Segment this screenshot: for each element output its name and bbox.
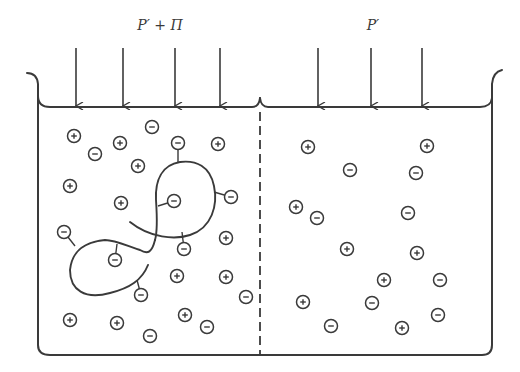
anion-icon xyxy=(146,121,159,134)
cation-icon xyxy=(111,317,124,330)
right-pressure-label: P′ xyxy=(367,17,380,33)
left-wall xyxy=(27,70,502,355)
osmotic-pressure-diagram: P′ + Π P′ xyxy=(0,0,520,372)
left-pressure-label: P′ + Π xyxy=(137,17,182,33)
anion-icon xyxy=(172,137,185,150)
pressure-arrows xyxy=(76,48,422,106)
free-ions xyxy=(64,121,447,343)
cation-icon xyxy=(115,197,128,210)
anion-icon xyxy=(225,191,238,204)
diagram-canvas xyxy=(0,0,520,372)
anion-icon xyxy=(402,207,415,220)
cation-icon xyxy=(68,130,81,143)
cation-icon xyxy=(421,140,434,153)
cation-icon xyxy=(64,180,77,193)
anion-icon xyxy=(432,309,445,322)
cation-icon xyxy=(378,274,391,287)
cation-icon xyxy=(179,309,192,322)
anion-icon xyxy=(168,195,181,208)
container xyxy=(27,70,502,355)
cation-icon xyxy=(297,296,310,309)
anion-icon xyxy=(240,291,253,304)
cation-icon xyxy=(64,314,77,327)
cation-icon xyxy=(396,322,409,335)
cation-icon xyxy=(411,247,424,260)
anion-icon xyxy=(311,212,324,225)
anion-icon xyxy=(109,254,122,267)
anion-icon xyxy=(366,297,379,310)
left-piston xyxy=(38,96,260,107)
anion-icon xyxy=(434,274,447,287)
cation-icon xyxy=(132,160,145,173)
cation-icon xyxy=(302,141,315,154)
right-piston xyxy=(260,98,492,107)
cation-icon xyxy=(171,270,184,283)
anion-icon xyxy=(410,167,423,180)
cation-icon xyxy=(341,243,354,256)
cation-icon xyxy=(220,232,233,245)
polyelectrolyte-chain xyxy=(70,162,215,296)
cation-icon xyxy=(212,138,225,151)
anion-icon xyxy=(344,164,357,177)
cation-icon xyxy=(220,271,233,284)
anion-icon xyxy=(58,226,71,239)
anion-icon xyxy=(135,289,148,302)
cation-icon xyxy=(114,137,127,150)
anion-icon xyxy=(325,320,338,333)
anion-icon xyxy=(201,321,214,334)
anion-icon xyxy=(89,148,102,161)
anion-icon xyxy=(178,243,191,256)
cation-icon xyxy=(290,201,303,214)
anion-icon xyxy=(144,330,157,343)
